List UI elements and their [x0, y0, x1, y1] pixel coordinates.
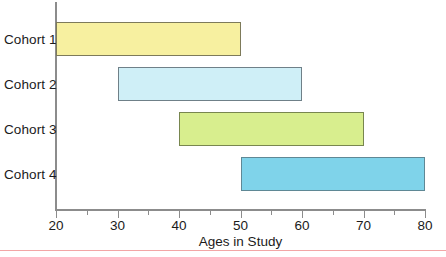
x-tick-major [118, 211, 119, 218]
x-tick-major [425, 211, 426, 218]
category-label-cohort-3: Cohort 3 [4, 122, 52, 137]
x-tick-label: 70 [356, 218, 371, 233]
bar-cohort-3 [179, 112, 364, 146]
category-label-cohort-2: Cohort 2 [4, 77, 52, 92]
x-tick-label: 60 [294, 218, 309, 233]
x-tick-major [241, 211, 242, 218]
x-tick-major [179, 211, 180, 218]
x-tick-minor [333, 211, 334, 215]
x-tick-major [302, 211, 303, 218]
x-tick-minor [394, 211, 395, 215]
x-tick-minor [148, 211, 149, 215]
x-tick-minor [210, 211, 211, 215]
x-tick-label: 50 [233, 218, 248, 233]
x-tick-major [364, 211, 365, 218]
x-tick-major [56, 211, 57, 218]
x-tick-minor [87, 211, 88, 215]
x-axis-title: Ages in Study [55, 234, 426, 249]
bar-cohort-2 [118, 67, 303, 101]
bottom-rule [0, 250, 446, 251]
category-label-cohort-1: Cohort 1 [4, 32, 52, 47]
bar-cohort-4 [241, 157, 426, 191]
category-label-cohort-4: Cohort 4 [4, 167, 52, 182]
x-tick-minor [271, 211, 272, 215]
x-tick-label: 40 [171, 218, 186, 233]
bar-cohort-1 [56, 22, 241, 56]
chart-figure: Cohort 1 Cohort 2 Cohort 3 Cohort 4 2030… [0, 0, 446, 257]
x-tick-label: 30 [110, 218, 125, 233]
x-tick-label: 80 [417, 218, 432, 233]
x-tick-label: 20 [48, 218, 63, 233]
